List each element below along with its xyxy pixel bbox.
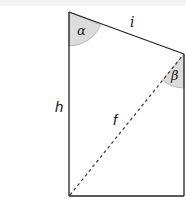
label-f: f: [113, 111, 119, 128]
diagonal-f: [70, 55, 183, 195]
geometry-diagram: α i β h f: [0, 0, 186, 201]
label-beta: β: [170, 68, 179, 83]
label-i: i: [130, 14, 134, 30]
label-h: h: [55, 98, 63, 115]
label-alpha: α: [77, 23, 86, 38]
